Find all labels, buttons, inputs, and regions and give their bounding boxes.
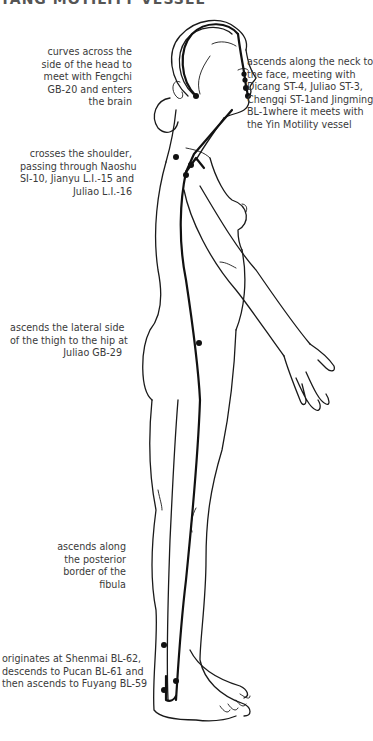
inner-leg-line — [167, 400, 178, 700]
annotation-ankle: originates at Shenmai BL-62, descends to… — [2, 653, 134, 691]
belly-outline — [236, 250, 245, 330]
back-leg-outline — [150, 400, 236, 721]
point-juliao-gb29 — [196, 340, 202, 346]
point-jingming-bl1 — [241, 71, 246, 76]
annotation-head: curves across the side of the head to me… — [40, 46, 132, 109]
front-leg-outline — [200, 330, 250, 716]
annotation-face: ascends along the neck to the face, meet… — [247, 56, 373, 132]
arm-back — [184, 190, 284, 356]
point-fuyang-bl59 — [161, 642, 167, 648]
back-outline — [143, 162, 166, 400]
point-jianyu-li15 — [173, 154, 179, 160]
point-juliao-li16 — [188, 162, 194, 168]
point-naoshu-si10 — [183, 172, 189, 178]
point-pucan-bl61 — [161, 687, 167, 693]
point-fengchi-gb20 — [193, 93, 199, 99]
point-shenmai-bl62 — [173, 678, 179, 684]
channel-head-path — [183, 24, 238, 96]
hand — [284, 344, 334, 410]
hair-bun — [154, 98, 178, 132]
annotation-shoulder: crosses the shoulder, passing through Na… — [20, 148, 132, 198]
hairline — [198, 42, 236, 94]
neck-back — [166, 110, 176, 162]
channel-body-path — [176, 172, 200, 700]
chest-outline — [210, 158, 246, 250]
elbow-crease — [220, 262, 236, 268]
annotation-thigh: ascends the lateral side of the thigh to… — [10, 322, 122, 360]
annotation-fibula: ascends along the posterior border of th… — [40, 541, 126, 591]
